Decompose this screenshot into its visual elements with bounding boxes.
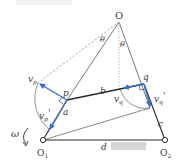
label-a: a	[63, 107, 68, 117]
label-d: d	[101, 142, 107, 152]
label-c: c	[158, 119, 163, 129]
label-O2: O2	[160, 148, 171, 159]
redaction-bar-d	[111, 142, 146, 150]
label-O1: O1	[37, 148, 48, 159]
label-theta-left: θ	[100, 35, 105, 44]
arc-vp	[35, 83, 50, 130]
line-O-to-p	[67, 22, 119, 100]
label-p: p	[63, 88, 69, 98]
four-bar-linkage-diagram: O θ θ vp p b q vq vq' a vp' c ω d O1 O2	[0, 0, 184, 168]
label-O: O	[115, 10, 123, 21]
line-O-to-c	[119, 22, 150, 108]
label-omega: ω	[11, 128, 19, 139]
dashed-line-O-to-vp	[38, 22, 119, 83]
pivot-O2	[162, 137, 167, 142]
pivot-O1	[40, 137, 45, 142]
label-vq-prime: vq'	[154, 91, 165, 106]
label-vp: vp	[28, 74, 37, 86]
redaction-bar-top	[16, 0, 72, 5]
label-q: q	[143, 72, 149, 82]
label-b: b	[100, 86, 106, 96]
label-theta-right: θ	[120, 40, 125, 49]
link-c	[144, 84, 165, 140]
label-vq: vq	[114, 94, 123, 106]
arrow-vq	[124, 84, 144, 88]
label-vp-prime: vp'	[39, 108, 50, 123]
